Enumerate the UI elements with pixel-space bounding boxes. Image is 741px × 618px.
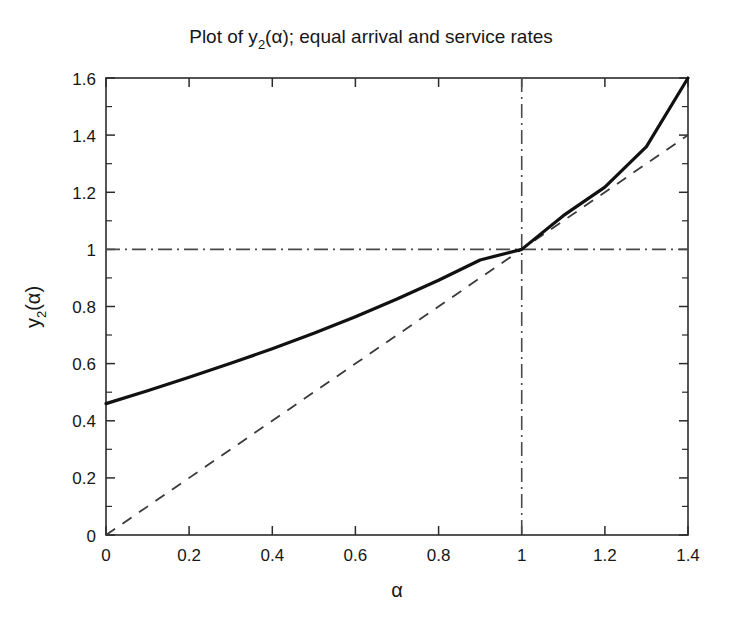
x-tick-label: 0.8 [427, 546, 451, 565]
y-tick-label: 0.8 [72, 298, 96, 317]
chart-svg: Plot of y2(α); equal arrival and service… [0, 0, 741, 618]
x-axis-ticks [106, 78, 688, 535]
y-tick-label: 1.2 [72, 184, 96, 203]
y-axis-ticks [106, 78, 688, 535]
series-y2-curve [106, 78, 688, 404]
plot-box-border [106, 78, 688, 535]
minor-ticks [106, 107, 688, 507]
y-tick-label: 0 [87, 527, 96, 546]
y-axis-label: y2(α) [22, 286, 49, 328]
chart-title: Plot of y2(α); equal arrival and service… [189, 26, 553, 52]
x-tick-label: 1.4 [676, 546, 700, 565]
y-axis-label-prefix: y [22, 318, 44, 328]
y-tick-label: 0.6 [72, 355, 96, 374]
chart-title-suffix: (α); equal arrival and service rates [265, 26, 553, 47]
series-identity-line [106, 135, 688, 535]
x-tick-label: 0.4 [260, 546, 284, 565]
y-tick-label: 1.4 [72, 127, 96, 146]
x-tick-label: 0.6 [344, 546, 368, 565]
figure-canvas: Plot of y2(α); equal arrival and service… [0, 0, 741, 618]
x-tick-label: 1.2 [593, 546, 617, 565]
y-tick-label: 0.2 [72, 469, 96, 488]
x-tick-label: 0.2 [177, 546, 201, 565]
y-tick-label: 1.6 [72, 70, 96, 89]
chart-title-prefix: Plot of y [189, 26, 258, 47]
y-tick-label: 0.4 [72, 412, 96, 431]
x-tick-label: 0 [101, 546, 110, 565]
x-tick-label: 1 [517, 546, 526, 565]
x-axis-label: α [391, 579, 403, 601]
y-axis-label-suffix: (α) [22, 286, 44, 311]
chart-title-subscript: 2 [258, 37, 265, 52]
x-tick-labels: 0 0.2 0.4 0.6 0.8 1 1.2 1.4 [101, 546, 700, 565]
y-tick-labels: 0 0.2 0.4 0.6 0.8 1 1.2 1.4 1.6 [72, 70, 96, 546]
y-axis-label-subscript: 2 [34, 311, 49, 318]
y-tick-label: 1 [87, 241, 96, 260]
